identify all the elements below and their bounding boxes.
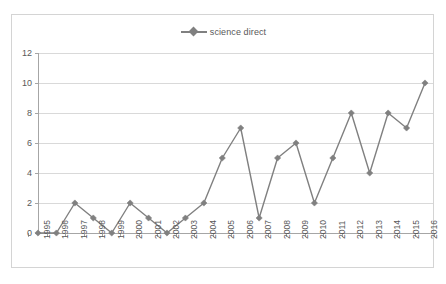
x-axis-label-2010: 2010 — [318, 220, 328, 239]
data-point-marker — [348, 110, 354, 116]
x-axis-label-2007: 2007 — [263, 220, 273, 239]
x-axis-label-1999: 1999 — [116, 220, 126, 239]
data-point-marker — [422, 80, 428, 86]
data-point-marker — [35, 230, 41, 236]
data-point-marker — [53, 230, 59, 236]
x-axis-label-2012: 2012 — [355, 220, 365, 239]
data-point-marker — [367, 170, 373, 176]
x-axis-label-2004: 2004 — [208, 220, 218, 239]
y-axis-label-6: 6 — [12, 138, 32, 148]
y-axis-label-8: 8 — [12, 108, 32, 118]
x-axis-label-2001: 2001 — [153, 220, 163, 239]
x-axis-label-2005: 2005 — [226, 220, 236, 239]
gridlines-group — [38, 53, 433, 233]
x-axis-label-2011: 2011 — [337, 221, 347, 239]
chart-container: 024681012 199519961997199819992000200120… — [11, 14, 434, 268]
series-line-science-direct — [38, 83, 425, 233]
x-axis-label-2002: 2002 — [171, 220, 181, 239]
data-point-marker — [238, 125, 244, 131]
data-point-marker — [256, 215, 262, 221]
x-axis-label-1995: 1995 — [42, 220, 52, 239]
x-axis-label-2014: 2014 — [392, 220, 402, 239]
y-axis-label-10: 10 — [12, 78, 32, 88]
x-axis-label-1996: 1996 — [60, 220, 70, 239]
series-polyline — [38, 83, 425, 233]
data-point-marker — [219, 155, 225, 161]
plot-area: 024681012 199519961997199819992000200120… — [12, 15, 435, 269]
x-axis-label-2006: 2006 — [245, 220, 255, 239]
chart-svg — [12, 15, 435, 269]
data-point-marker — [311, 200, 317, 206]
x-axis-label-1998: 1998 — [97, 220, 107, 239]
x-axis-label-2008: 2008 — [282, 220, 292, 239]
x-axis-label-2015: 2015 — [411, 220, 421, 239]
x-axis-label-2003: 2003 — [189, 220, 199, 239]
x-axis-label-2009: 2009 — [300, 220, 310, 239]
y-axis-label-4: 4 — [12, 168, 32, 178]
y-axis-label-0: 0 — [12, 228, 32, 238]
x-axis-label-2000: 2000 — [134, 220, 144, 239]
data-point-marker — [330, 155, 336, 161]
x-axis-label-1997: 1997 — [79, 220, 89, 239]
y-axis-label-2: 2 — [12, 198, 32, 208]
x-axis-label-2016: 2016 — [429, 220, 439, 239]
x-axis-label-2013: 2013 — [374, 220, 384, 239]
y-axis-label-12: 12 — [12, 48, 32, 58]
series-markers-science-direct — [35, 80, 428, 236]
